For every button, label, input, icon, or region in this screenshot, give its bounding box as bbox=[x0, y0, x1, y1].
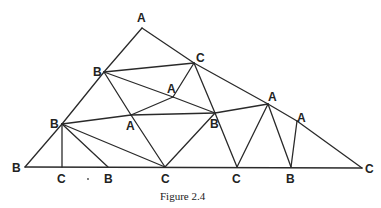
edge-v10-v16 bbox=[25, 167, 362, 168]
vertex-label-v7: A bbox=[268, 90, 277, 104]
vertex-label-v4: A bbox=[167, 82, 176, 96]
edge-v9-v5 bbox=[62, 115, 131, 124]
vertex-label-v10: B bbox=[12, 161, 21, 175]
edge-v5-v6 bbox=[131, 113, 215, 115]
edge-v1-v2 bbox=[104, 28, 142, 72]
edge-v2-v3 bbox=[104, 63, 194, 72]
edge-v9-v13 bbox=[62, 124, 165, 167]
edge-v2-v4 bbox=[104, 72, 173, 97]
edge-v3-v7 bbox=[194, 63, 268, 104]
vertex-label-v2: B bbox=[93, 65, 102, 79]
edge-v4-v5 bbox=[131, 97, 173, 115]
edge-v7-v8 bbox=[268, 104, 297, 121]
edge-v7-v14 bbox=[237, 104, 268, 167]
edge-v6-v7 bbox=[215, 104, 268, 113]
edge-v1-v3 bbox=[142, 28, 194, 63]
vertex-label-v9: B bbox=[50, 117, 59, 131]
triangulated-triangle-diagram: ABCAABAABBCBCCBC Figure 2.4 bbox=[0, 0, 381, 208]
edge-v9-v12 bbox=[62, 124, 108, 167]
vertex-label-v11: C bbox=[57, 172, 66, 186]
vertex-label-v12: B bbox=[104, 172, 113, 186]
vertex-label-v1: A bbox=[137, 11, 146, 25]
edge-v3-v6 bbox=[194, 63, 215, 113]
vertex-label-v5: A bbox=[126, 119, 135, 133]
edge-v2-v5 bbox=[104, 72, 131, 115]
edge-v8-v15 bbox=[291, 121, 297, 167]
edges-group bbox=[25, 28, 362, 168]
edge-v6-v13 bbox=[165, 113, 215, 167]
vertex-label-v14: C bbox=[232, 172, 241, 186]
edge-v8-v16 bbox=[297, 121, 362, 168]
vertex-label-v13: C bbox=[161, 172, 170, 186]
edge-v2-v9 bbox=[62, 72, 104, 124]
vertex-label-v8: A bbox=[297, 111, 306, 125]
vertex-labels-group: ABCAABAABBCBCCBC bbox=[12, 11, 374, 186]
stray-dot-mark bbox=[87, 178, 89, 180]
vertex-label-v15: B bbox=[286, 172, 295, 186]
vertex-label-v6: B bbox=[210, 117, 219, 131]
vertex-label-v16: C bbox=[365, 162, 374, 176]
vertex-label-v3: C bbox=[196, 51, 205, 65]
edge-v7-v15 bbox=[268, 104, 291, 167]
figure-caption: Figure 2.4 bbox=[160, 190, 206, 202]
edge-v4-v3 bbox=[173, 63, 194, 97]
